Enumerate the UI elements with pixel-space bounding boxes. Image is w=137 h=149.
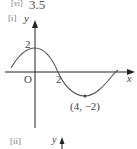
graph-ii-y-axis-arrow-icon xyxy=(60,137,65,144)
min-point-label: (4, −2) xyxy=(70,101,100,112)
graph-ii-y-axis-label: y xyxy=(52,135,56,145)
y-intercept-label: 2 xyxy=(25,39,31,50)
origin-label: O xyxy=(24,74,32,85)
x-intercept-label: 2 xyxy=(56,74,62,85)
x-axis-label: x xyxy=(127,74,131,84)
graph-i-plot xyxy=(0,0,137,149)
y-axis-arrow-icon xyxy=(32,20,38,28)
min-point-marker xyxy=(84,95,87,98)
graph-ii-label: [ii] xyxy=(10,137,21,146)
